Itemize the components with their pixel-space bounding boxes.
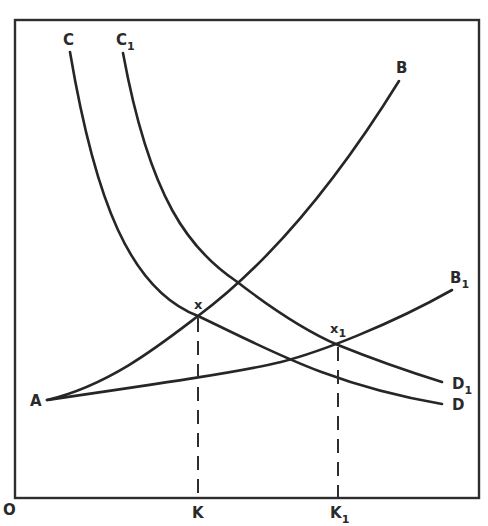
curve-a-b1: [47, 290, 452, 400]
curve-c-d: [70, 52, 442, 404]
label-k1: K1: [330, 504, 349, 526]
label-x: x: [194, 297, 203, 312]
label-b1: B1: [450, 269, 469, 291]
curve-a-b: [47, 81, 399, 400]
label-k: K: [192, 504, 205, 522]
label-a: A: [30, 392, 42, 410]
diagram-frame: [15, 20, 479, 498]
label-c1: C1: [116, 31, 135, 53]
label-d1: D1: [452, 375, 472, 397]
label-origin: O: [3, 501, 16, 519]
economic-diagram: C C1 B B1 D1 D A x x1 O K K1: [0, 0, 488, 526]
label-x1: x1: [330, 321, 346, 340]
label-b: B: [396, 59, 407, 77]
label-d: D: [452, 396, 464, 414]
label-c: C: [63, 31, 74, 49]
curve-c1-d1: [123, 53, 442, 382]
